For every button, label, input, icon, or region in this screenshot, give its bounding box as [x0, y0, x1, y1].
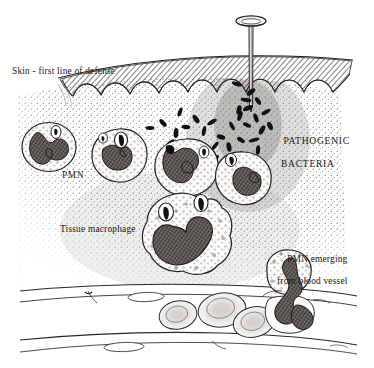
label-tissue-macrophage: Tissue macrophage: [60, 224, 136, 235]
label-pmn-emerging-line2: from blood vessel: [277, 276, 348, 287]
pmn-cell-1: [22, 123, 76, 172]
tissue-macrophage: [142, 193, 231, 274]
inflammation-figure: Skin - first line of defense PMN Tissue …: [0, 0, 374, 368]
pmn-cell-3: [155, 139, 218, 196]
label-pmn: PMN: [62, 170, 84, 181]
label-skin: Skin - first line of defense: [12, 66, 115, 77]
label-pmn-emerging-line1: PMN emerging: [287, 254, 347, 264]
bacterium: [146, 126, 155, 130]
label-pathogenic-bacteria-line2: BACTERIA: [271, 158, 350, 169]
pmn-cell-4: [215, 152, 271, 205]
label-pathogenic-bacteria-line1: PATHOGENIC: [283, 135, 349, 146]
pmn-cell-2: [92, 129, 147, 182]
label-pmn-emerging: PMN emerging from blood vessel: [277, 243, 348, 310]
label-pathogenic-bacteria: PATHOGENIC BACTERIA: [271, 124, 350, 192]
